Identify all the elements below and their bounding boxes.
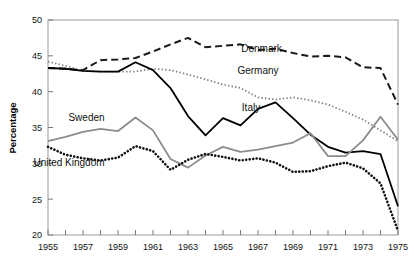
y-tick-label: 25 <box>32 195 42 205</box>
series-label-italy: Italy <box>242 102 260 113</box>
x-tick-label: 1973 <box>353 242 373 252</box>
series-label-united-kingdom: United Kingdom <box>33 157 104 168</box>
y-tick-label: 45 <box>32 51 42 61</box>
series-label-denmark: Denmark <box>241 43 283 54</box>
series-label-sweden: Sweden <box>68 112 104 123</box>
x-tick-label: 1955 <box>38 242 58 252</box>
x-tick-label: 1969 <box>283 242 303 252</box>
x-tick-label: 1967 <box>248 242 268 252</box>
x-tick-label: 1971 <box>318 242 338 252</box>
y-axis-title: Percentage <box>7 102 18 153</box>
y-tick-label: 20 <box>32 230 42 240</box>
y-tick-label: 35 <box>32 123 42 133</box>
y-tick-label: 40 <box>32 87 42 97</box>
x-tick-label: 1961 <box>143 242 163 252</box>
line-chart: 20253035404550 1955195719591961196319651… <box>0 0 414 266</box>
plot-frame <box>48 20 398 235</box>
x-tick-label: 1975 <box>388 242 408 252</box>
x-tick-label: 1963 <box>178 242 198 252</box>
chart-svg: 20253035404550 1955195719591961196319651… <box>0 0 414 266</box>
series-label-germany: Germany <box>237 65 278 76</box>
x-tick-label: 1959 <box>108 242 128 252</box>
plot-area-border <box>48 20 398 235</box>
x-tick-label: 1965 <box>213 242 233 252</box>
x-tick-label: 1957 <box>73 242 93 252</box>
y-tick-label: 50 <box>32 15 42 25</box>
